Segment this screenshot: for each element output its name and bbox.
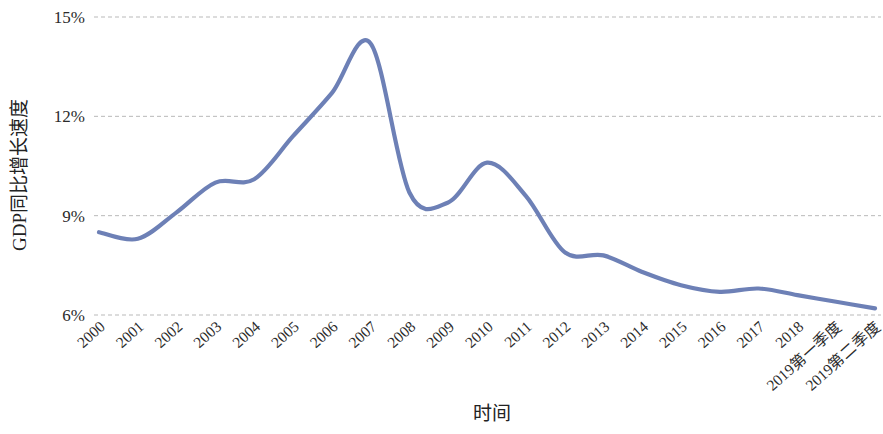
y-axis-title: GDP同比增长速度 [9, 99, 30, 251]
chart-page: 15%12%9%6% GDP同比增长速度 2000200120022003200… [0, 0, 883, 434]
chart-background [0, 0, 883, 434]
gdp-growth-line-chart: 15%12%9%6% GDP同比增长速度 2000200120022003200… [0, 0, 883, 434]
x-axis-title: 时间 [473, 403, 511, 424]
y-tick-15: 15% [54, 8, 85, 27]
y-tick-6: 6% [62, 306, 85, 325]
y-tick-12: 12% [54, 107, 85, 126]
y-tick-9: 9% [62, 207, 85, 226]
